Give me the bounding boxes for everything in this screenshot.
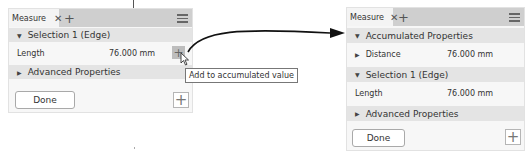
collapsed-triangle-icon: ▶ (355, 51, 360, 58)
expanded-triangle-icon: ▼ (355, 71, 360, 78)
section-title: Advanced Properties (366, 109, 459, 119)
section-selection[interactable]: ▼ Selection 1 (Edge) (347, 67, 524, 82)
done-button[interactable]: Done (352, 129, 405, 147)
tab-label: Measure (350, 13, 384, 22)
row-label: Length (355, 89, 383, 98)
section-advanced[interactable]: ▶ Advanced Properties (347, 106, 524, 121)
measure-panel-after: Measure ✕ + ▼ Accumulated Properties ▶ D… (346, 7, 525, 151)
section-title: Accumulated Properties (366, 31, 473, 41)
add-tab-button[interactable]: + (398, 8, 409, 26)
section-accumulated[interactable]: ▼ Accumulated Properties (347, 28, 524, 43)
row-value: 76.000 mm (447, 50, 493, 59)
menu-icon[interactable] (509, 11, 520, 22)
tab-measure[interactable]: Measure ✕ (347, 8, 393, 26)
expanded-triangle-icon: ▼ (355, 32, 360, 39)
row-value: 76.000 mm (447, 89, 493, 98)
collapsed-triangle-icon: ▶ (355, 110, 360, 117)
add-button[interactable]: + (505, 129, 521, 145)
row-label: Distance (366, 50, 401, 59)
tab-bar: Measure ✕ + (347, 8, 524, 26)
section-title: Selection 1 (Edge) (366, 70, 449, 80)
row-length: Length 76.000 mm (347, 83, 524, 103)
row-distance[interactable]: ▶ Distance 76.000 mm (347, 44, 524, 64)
